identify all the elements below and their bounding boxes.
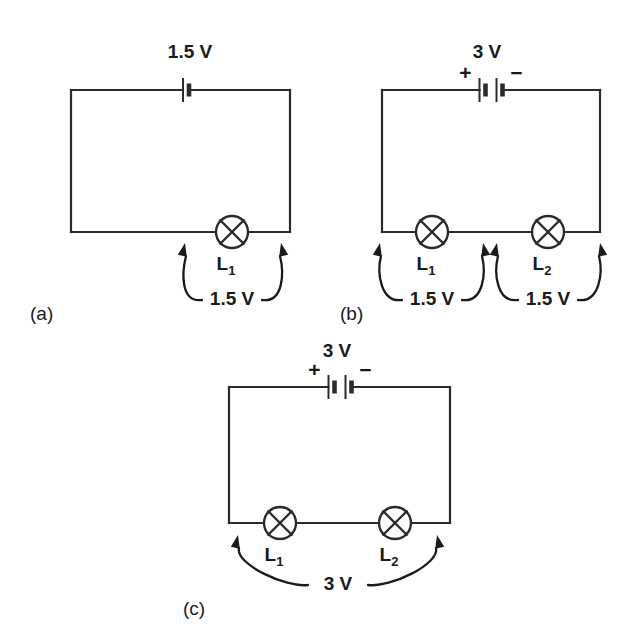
measurement-arrow-left-curve [496,256,518,300]
circuit-diagram-canvas: 1.5 VL11.5 V(a)3 V+−L1L21.5 V1.5 V(b)3 V… [0,0,640,644]
lamp-label-c-1: L1 [265,544,284,569]
lamp-label-b-1: L1 [417,253,436,278]
polarity-plus-c: + [308,358,320,381]
measurement-arrow-right-head [279,243,288,257]
measurement-arrow-right-curve [368,548,436,585]
lamp-icon-b-1 [416,216,448,248]
measurement-arrow-left-head [231,535,240,549]
measurement-arrow-right-head [435,535,444,549]
measurement-value-label: 1.5 V [410,288,455,309]
measurement-arrow-left-head [178,243,187,257]
polarity-plus-b: + [459,61,471,84]
lamp-label-b-2: L2 [533,253,552,278]
source-voltage-label-c: 3 V [323,340,352,361]
measurement-value-label: 1.5 V [210,288,255,309]
polarity-minus-b: − [510,61,522,84]
panel-label-b: (b) [340,303,363,324]
measurement-arrow-left-head [373,243,382,257]
circuit-diagram-figure: 1.5 VL11.5 V(a)3 V+−L1L21.5 V1.5 V(b)3 V… [0,0,640,644]
lamp-icon-a-1 [216,216,248,248]
measurement-arrow-right-curve [462,256,484,300]
source-voltage-label-b: 3 V [473,41,502,62]
circuit-panel-c: 3 V+−L1L23 V(c) [183,340,450,619]
measurement-arrow-right-head [598,243,607,257]
battery-icon-a [183,78,189,102]
panel-label-c: (c) [183,598,205,619]
measurement-value-label: 1.5 V [526,288,571,309]
lamp-label-c-2: L2 [380,544,399,569]
measurement-arrow-left-curve [379,256,402,300]
lamp-icon-b-2 [532,216,564,248]
measurement-arrow-left-head [490,243,499,257]
measurement-arrow-right-curve [262,256,282,300]
circuit-panel-a: 1.5 VL11.5 V(a) [30,41,290,324]
measurement-arrow-right-curve [578,256,601,300]
polarity-minus-c: − [359,358,371,381]
battery-icon-c [329,375,352,399]
circuit-panel-b: 3 V+−L1L21.5 V1.5 V(b) [340,41,607,324]
measurement-value-label: 3 V [324,573,353,594]
panel-label-a: (a) [30,303,53,324]
lamp-icon-c-2 [379,507,411,539]
measurement-arrow-left-curve [183,256,202,300]
measurement-arrow-right-head [481,243,490,257]
lamp-label-a-1: L1 [217,253,236,278]
battery-icon-b [480,78,503,102]
source-voltage-label-a: 1.5 V [168,41,213,62]
lamp-icon-c-1 [264,507,296,539]
measurement-c-1: 3 V [231,535,444,594]
